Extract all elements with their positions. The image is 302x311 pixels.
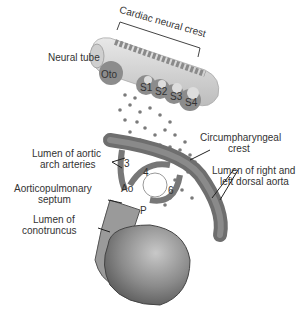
aortic-arch-label-1: Lumen of aortic bbox=[32, 148, 101, 159]
s4-label: S4 bbox=[185, 97, 197, 108]
circumpharyngeal-label-2: crest bbox=[228, 143, 250, 154]
dorsal-aorta-label-1: Lumen of right and bbox=[212, 165, 295, 176]
arch-6-label: 6 bbox=[168, 185, 174, 196]
conotruncus-label-1: Lumen of bbox=[33, 214, 75, 225]
ao-label: Ao bbox=[121, 183, 133, 194]
ap-septum-label-2: septum bbox=[38, 194, 71, 205]
s3-label: S3 bbox=[170, 91, 182, 102]
conotruncus-label-2: conotruncus bbox=[22, 225, 76, 236]
arch-4-label: 4 bbox=[143, 167, 149, 178]
dorsal-aorta-label-2: left dorsal aorta bbox=[220, 176, 289, 187]
aortic-arch-label-2: arch arteries bbox=[40, 159, 96, 170]
arch-3-label: 3 bbox=[124, 158, 130, 169]
heart bbox=[104, 225, 190, 305]
circumpharyngeal-label-1: Circumpharyngeal bbox=[200, 132, 281, 143]
p-label: P bbox=[140, 205, 147, 216]
neural-tube-label: Neural tube bbox=[48, 52, 100, 63]
oto-label: Oto bbox=[101, 69, 117, 80]
ap-septum-label-1: Aorticopulmonary bbox=[14, 183, 92, 194]
s1-label: S1 bbox=[140, 82, 152, 93]
s2-label: S2 bbox=[155, 86, 167, 97]
